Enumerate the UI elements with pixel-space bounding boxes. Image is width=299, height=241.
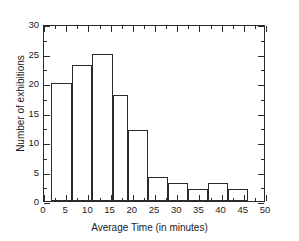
axis-tick bbox=[244, 195, 245, 201]
axis-tick bbox=[255, 198, 256, 201]
axis-tick bbox=[88, 26, 89, 32]
axis-tick bbox=[100, 198, 101, 201]
axis-tick bbox=[222, 195, 223, 201]
axis-tick bbox=[261, 188, 264, 189]
axis-tick bbox=[261, 159, 264, 160]
histogram-chart: 05101520253035404550 051015202530 Averag… bbox=[0, 0, 299, 241]
axis-tick bbox=[44, 26, 50, 27]
axis-tick bbox=[77, 26, 78, 29]
axis-tick bbox=[177, 195, 178, 201]
axis-tick bbox=[233, 26, 234, 29]
axis-tick bbox=[44, 174, 50, 175]
axis-tick bbox=[258, 115, 264, 116]
histogram-bar bbox=[51, 83, 72, 201]
axis-tick bbox=[166, 198, 167, 201]
axis-tick bbox=[77, 198, 78, 201]
axis-tick bbox=[188, 26, 189, 29]
bars-layer bbox=[44, 26, 264, 201]
axis-tick bbox=[166, 26, 167, 29]
axis-tick bbox=[122, 26, 123, 29]
axis-tick bbox=[188, 198, 189, 201]
y-axis-title: Number of exhibitions bbox=[15, 29, 26, 179]
axis-tick bbox=[266, 26, 267, 32]
x-axis-title: Average Time (in minutes) bbox=[0, 222, 299, 233]
axis-tick bbox=[44, 70, 47, 71]
axis-tick bbox=[155, 26, 156, 32]
axis-tick bbox=[66, 26, 67, 32]
axis-tick bbox=[199, 26, 200, 32]
axis-tick bbox=[44, 129, 47, 130]
axis-tick bbox=[44, 100, 47, 101]
axis-tick bbox=[258, 56, 264, 57]
axis-tick bbox=[44, 115, 50, 116]
axis-tick bbox=[44, 144, 50, 145]
axis-tick bbox=[211, 26, 212, 29]
histogram-bar bbox=[188, 189, 208, 201]
axis-tick bbox=[44, 41, 47, 42]
axis-tick bbox=[44, 56, 50, 57]
axis-tick bbox=[133, 195, 134, 201]
axis-tick bbox=[261, 41, 264, 42]
histogram-bar bbox=[128, 130, 148, 201]
axis-tick bbox=[211, 198, 212, 201]
axis-tick bbox=[55, 198, 56, 201]
axis-tick bbox=[44, 159, 47, 160]
axis-tick bbox=[261, 100, 264, 101]
axis-tick bbox=[55, 26, 56, 29]
axis-tick bbox=[155, 195, 156, 201]
axis-tick bbox=[258, 174, 264, 175]
y-tick-label: 0 bbox=[17, 197, 39, 207]
histogram-bar bbox=[92, 54, 113, 202]
histogram-bar bbox=[168, 183, 188, 201]
axis-tick bbox=[233, 198, 234, 201]
axis-tick bbox=[111, 26, 112, 32]
axis-tick bbox=[88, 195, 89, 201]
axis-tick bbox=[258, 144, 264, 145]
axis-tick bbox=[244, 26, 245, 32]
axis-tick bbox=[144, 26, 145, 29]
axis-tick bbox=[44, 195, 45, 201]
axis-tick bbox=[111, 195, 112, 201]
axis-tick bbox=[66, 195, 67, 201]
histogram-bar bbox=[72, 65, 93, 201]
histogram-bar bbox=[228, 189, 248, 201]
axis-tick bbox=[122, 198, 123, 201]
axis-tick bbox=[199, 195, 200, 201]
axis-tick bbox=[266, 195, 267, 201]
axis-tick bbox=[44, 188, 47, 189]
axis-tick bbox=[261, 129, 264, 130]
plot-area bbox=[43, 25, 265, 202]
histogram-bar bbox=[113, 95, 128, 201]
axis-tick bbox=[144, 198, 145, 201]
axis-tick bbox=[255, 26, 256, 29]
axis-tick bbox=[258, 85, 264, 86]
x-tick-label: 50 bbox=[251, 204, 279, 215]
axis-tick bbox=[133, 26, 134, 32]
axis-tick bbox=[258, 26, 264, 27]
axis-tick bbox=[100, 26, 101, 29]
axis-tick bbox=[44, 85, 50, 86]
axis-tick bbox=[177, 26, 178, 32]
axis-tick bbox=[261, 70, 264, 71]
axis-tick bbox=[222, 26, 223, 32]
